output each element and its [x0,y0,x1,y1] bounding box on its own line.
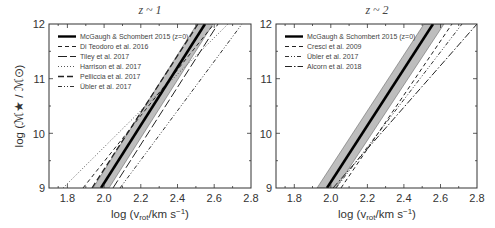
legend-item: Tiley et al. 2017 [80,53,129,61]
x-tick-label: 2.8 [469,192,484,204]
x-tick-labels: 1.8 2.0 2.2 2.4 2.6 2.8 [287,192,485,204]
y-tick-label: 9 [266,182,272,194]
chart-panel-z2: z ~ 2 1.8 2.0 2.2 2.4 2.6 2.8 9 [250,0,495,228]
chart-panel-z1: z ~ 1 [0,0,250,228]
x-tick-label: 2.4 [170,192,185,204]
x-axis-label: log (vrot/km s−1) [338,207,416,222]
y-tick-label: 10 [260,128,272,140]
x-tick-label: 2.6 [433,192,448,204]
y-tick-label: 11 [261,73,272,85]
legend-item: Übler et al. 2017 [80,83,131,90]
legend-item: Übler et al. 2017 [307,53,358,60]
x-tick-label: 2.4 [396,192,411,204]
x-axis-label: log (vrot/km s−1) [111,207,189,222]
legend-item: Cresci et al. 2009 [307,43,362,50]
x-tick-labels: 1.8 2.0 2.2 2.4 2.6 2.8 [60,192,259,204]
x-tick-label: 1.8 [60,192,75,204]
x-tick-label: 2.2 [360,192,375,204]
y-tick-label: 10 [33,128,45,140]
y-axis-label: log (ℳ★ / ℳ⊙) [13,64,25,147]
y-tick-labels: 9 10 11 12 [33,18,45,194]
x-tick-label: 1.8 [287,192,302,204]
legend-item: McGaugh & Schombert 2015 (z=0) [80,33,188,41]
y-tick-label: 9 [39,182,45,194]
x-tick-label: 2.2 [133,192,148,204]
x-tick-label: 2.6 [207,192,222,204]
y-tick-label: 12 [33,18,45,30]
x-tick-label: 2.0 [96,192,111,204]
legend-item: McGaugh & Schombert 2015 (z=0) [307,33,415,41]
legend-item: Harrison et al. 2017 [80,63,141,70]
y-tick-label: 11 [34,73,45,85]
y-tick-labels: 9 10 11 12 [260,18,272,194]
legend-item: Pelliccia et al. 2017 [80,73,140,80]
chart-title: z ~ 1 [137,3,161,17]
legend-item: Di Teodoro et al. 2016 [80,43,148,50]
chart-z2-svg: z ~ 2 1.8 2.0 2.2 2.4 2.6 2.8 9 [250,0,495,228]
legend: McGaugh & Schombert 2015 (z=0) Cresci et… [285,33,415,70]
x-tick-label: 2.0 [323,192,338,204]
y-tick-label: 12 [260,18,272,30]
chart-title: z ~ 2 [364,3,388,17]
legend-item: Alcorn et al. 2018 [307,63,362,70]
